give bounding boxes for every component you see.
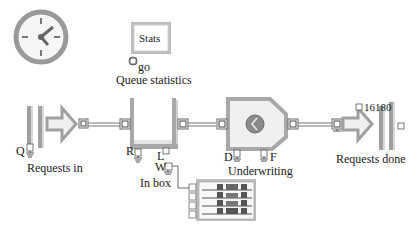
clock-icon[interactable] xyxy=(16,12,66,62)
underwriting-f-connector[interactable] xyxy=(260,150,268,161)
queue-statistics-title: Queue statistics xyxy=(116,74,192,86)
requests-done-count: 16180 xyxy=(364,102,392,113)
stats-go-label: go xyxy=(138,61,150,73)
underwriting-activity-block[interactable] xyxy=(228,99,286,149)
in-box-title: In box xyxy=(140,177,171,189)
model-canvas xyxy=(0,0,417,236)
requests-in-output-connector[interactable] xyxy=(79,119,88,128)
requests-done-title: Requests done xyxy=(336,153,406,165)
r-connector-label: R xyxy=(126,145,134,157)
plotter-block[interactable] xyxy=(196,179,256,221)
underwriting-d-connector[interactable] xyxy=(233,150,241,161)
f-connector-label: F xyxy=(270,151,277,163)
underwriting-output-connector[interactable] xyxy=(288,119,298,129)
plotter-input-connectors[interactable] xyxy=(189,184,196,218)
connection-line xyxy=(188,123,216,126)
connection-line xyxy=(298,123,332,126)
requests-in-title: Requests in xyxy=(27,162,83,174)
underwriting-input-connector[interactable] xyxy=(217,119,227,129)
underwriting-title: Underwriting xyxy=(228,165,293,177)
requests-in-q-connector[interactable] xyxy=(26,144,34,157)
requests-done-count-connector[interactable] xyxy=(356,104,362,110)
w-connector-label: W xyxy=(155,161,166,173)
in-box-output-connector[interactable] xyxy=(178,119,188,129)
connection-line xyxy=(88,123,120,126)
requests-in-block[interactable] xyxy=(27,106,76,148)
in-box-queue-block[interactable] xyxy=(130,98,178,149)
stats-go-connector[interactable] xyxy=(129,57,137,65)
w-to-plotter-line xyxy=(172,166,190,188)
q-connector-label: Q xyxy=(16,145,25,157)
in-box-input-connector[interactable] xyxy=(120,119,130,129)
requests-done-output-connector[interactable] xyxy=(398,123,404,129)
requests-done-input-connector[interactable] xyxy=(332,119,342,131)
stats-button-label[interactable]: Stats xyxy=(139,33,160,44)
in-box-r-connector[interactable] xyxy=(134,149,142,162)
d-connector-label: D xyxy=(224,151,233,163)
